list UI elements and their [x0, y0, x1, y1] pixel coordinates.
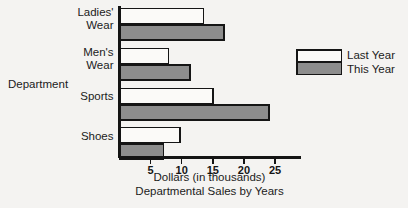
x-axis-title: Dollars (in thousands)	[119, 171, 300, 183]
category-label-sports: Sports	[0, 90, 114, 103]
category-label-line: Shoes	[0, 130, 114, 143]
category-label-line: Wear	[0, 19, 114, 32]
bar-men-s-wear-this-year	[120, 65, 190, 80]
bar-sports-this-year	[120, 105, 269, 120]
chart-caption: Departmental Sales by Years	[106, 185, 313, 197]
category-label-line: Ladies'	[0, 6, 114, 19]
bar-shoes-last-year	[120, 128, 180, 143]
this-year-swatch	[297, 62, 342, 74]
category-label-line: Men's	[0, 46, 114, 59]
category-label-line: Wear	[0, 59, 114, 72]
y-axis-title: Department	[8, 78, 68, 90]
legend-labels: Last Year This Year	[347, 48, 395, 76]
last-year-swatch	[297, 50, 342, 62]
legend-label-this-year: This Year	[347, 62, 395, 76]
bar-sports-last-year	[120, 89, 213, 104]
bar-men-s-wear-last-year	[120, 49, 169, 64]
bar-ladies-wear-last-year	[120, 9, 204, 24]
bar-chart: 510152025 Ladies'Wear Men'sWear Sports S…	[0, 0, 408, 208]
legend-swatches	[296, 49, 342, 76]
category-label-ladies-wear: Ladies'Wear	[0, 6, 114, 31]
category-label-shoes: Shoes	[0, 130, 114, 143]
category-label-line: Sports	[0, 90, 114, 103]
legend-label-last-year: Last Year	[347, 48, 395, 62]
category-label-mens-wear: Men'sWear	[0, 46, 114, 71]
bars-group	[120, 9, 269, 160]
bar-ladies-wear-this-year	[120, 25, 224, 40]
